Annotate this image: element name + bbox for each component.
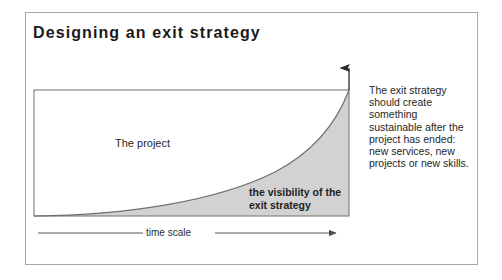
time-scale-axis-label: time scale — [146, 227, 191, 240]
visibility-area-label: the visibility of the exit strategy — [249, 186, 353, 212]
project-box-label: The project — [115, 137, 170, 150]
side-note-text: The exit strategy should create somethin… — [369, 84, 473, 169]
